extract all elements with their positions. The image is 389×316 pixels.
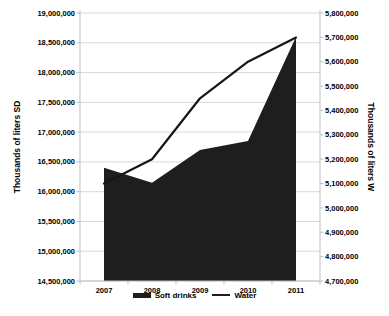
- right-axis-title: Thousands of liters W: [366, 103, 376, 192]
- legend-item-soft-drinks: Soft drinks: [133, 291, 197, 300]
- soft-drinks-area-swatch: [133, 293, 151, 298]
- left-axis-tick-label: 18,000,000: [37, 68, 75, 77]
- left-axis-tick-label: 16,000,000: [37, 187, 75, 196]
- plot-area: 19,000,00018,500,00018,000,00017,500,000…: [0, 0, 389, 316]
- right-axis-tick-label: 5,500,000: [325, 82, 358, 91]
- right-axis-tick-label: 4,900,000: [325, 228, 358, 237]
- right-axis-tick-label: 5,200,000: [325, 155, 358, 164]
- right-axis-tick-label: 5,600,000: [325, 57, 358, 66]
- legend-label-water: Water: [234, 291, 256, 300]
- left-axis-tick-label: 15,000,000: [37, 247, 75, 256]
- right-axis-tick-label: 5,300,000: [325, 130, 358, 139]
- right-axis-tick-label: 4,700,000: [325, 277, 358, 286]
- right-axis-tick-label: 5,400,000: [325, 106, 358, 115]
- left-axis-tick-label: 15,500,000: [37, 217, 75, 226]
- legend: Soft drinks Water: [0, 289, 389, 301]
- left-axis-tick-label: 18,500,000: [37, 38, 75, 47]
- left-axis-tick-label: 14,500,000: [37, 277, 75, 286]
- legend-label-soft-drinks: Soft drinks: [155, 291, 197, 300]
- left-axis-tick-label: 16,500,000: [37, 157, 75, 166]
- right-axis-tick-label: 5,100,000: [325, 179, 358, 188]
- left-axis-tick-label: 19,000,000: [37, 9, 75, 18]
- left-axis-tick-label: 17,500,000: [37, 98, 75, 107]
- right-axis-tick-label: 4,800,000: [325, 252, 358, 261]
- right-axis-tick-label: 5,000,000: [325, 204, 358, 213]
- legend-item-water: Water: [212, 291, 256, 300]
- left-axis-tick-label: 17,000,000: [37, 128, 75, 137]
- right-axis-tick-label: 5,700,000: [325, 33, 358, 42]
- soft-drinks-area: [104, 37, 296, 281]
- water-line-swatch: [212, 294, 230, 297]
- right-axis-tick-label: 5,800,000: [325, 9, 358, 18]
- chart-container: 19,000,00018,500,00018,000,00017,500,000…: [0, 0, 389, 316]
- left-axis-title: Thousands of liters SD: [12, 101, 22, 194]
